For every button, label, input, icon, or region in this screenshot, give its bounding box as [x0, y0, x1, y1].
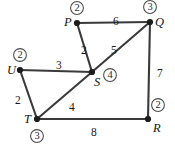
- edge-weight-q-r: 7: [157, 68, 163, 80]
- graph-canvas: [0, 0, 175, 149]
- node-dot-p: [74, 20, 80, 26]
- node-label-t: T: [24, 113, 31, 126]
- node-label-r: R: [153, 122, 161, 135]
- node-dot-r: [145, 116, 151, 122]
- node-label-u: U: [7, 64, 16, 77]
- edge-q-r: [148, 22, 150, 119]
- edge-s-q: [92, 22, 150, 72]
- edge-weight-s-q: 5: [111, 45, 117, 57]
- node-badge-value-p: 2: [71, 3, 83, 14]
- edge-weight-t-s: 4: [69, 102, 75, 114]
- node-badge-value-q: 3: [144, 2, 156, 13]
- node-badge-value-s: 4: [104, 70, 116, 81]
- edge-weight-p-s: 2: [81, 45, 87, 57]
- graph-diagram: 62532487P2Q3U2S4T3R2: [0, 0, 175, 149]
- node-dot-q: [147, 19, 153, 25]
- edge-t-s: [37, 72, 92, 119]
- node-badge-value-t: 3: [31, 131, 43, 142]
- node-label-s: S: [94, 76, 100, 89]
- edges-group: [20, 22, 150, 119]
- node-badge-value-u: 2: [14, 50, 26, 61]
- edge-weight-u-t: 2: [15, 95, 21, 107]
- node-dot-u: [17, 67, 23, 73]
- edge-weight-u-s: 3: [56, 60, 62, 72]
- node-label-q: Q: [155, 16, 164, 29]
- node-dot-t: [34, 116, 40, 122]
- node-badge-value-r: 2: [152, 100, 164, 111]
- node-label-p: P: [64, 16, 72, 29]
- edge-weight-t-r: 8: [91, 127, 97, 139]
- edge-weight-p-q: 6: [113, 16, 119, 28]
